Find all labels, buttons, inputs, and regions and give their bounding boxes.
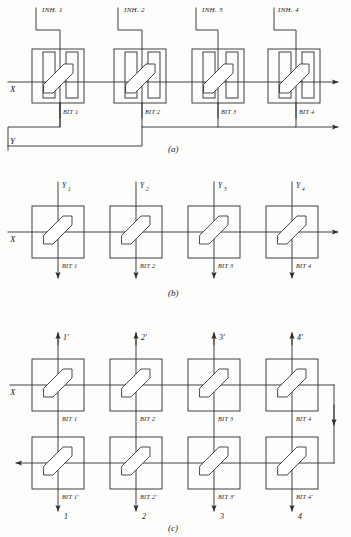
panel-a-bit-3-label: BIT 3	[221, 108, 236, 115]
panel-b-x-label: X	[9, 234, 16, 244]
panel-b-y-2-subscript: 2	[146, 186, 149, 192]
panel-b-y-3-subscript: 3	[224, 186, 227, 192]
panel-b-y-lines	[58, 182, 292, 278]
panel-c-top-4-label: 4'	[297, 333, 303, 342]
panel-c-bit-top-2-label: BIT 2	[140, 415, 155, 422]
panel-c-top-1-label: 1'	[63, 333, 69, 342]
panel-c-bottom-4-label: 4	[298, 512, 302, 521]
panel-a-inh-2-label: INH. 2	[123, 6, 145, 14]
panel-b-bit-1-label: BIT 1	[62, 262, 77, 269]
panel-b-caption: (b)	[168, 288, 179, 298]
panel-a-bit-2-label: BIT 2	[145, 108, 160, 115]
panel-b-core-arrows	[44, 216, 306, 244]
panel-c-drive-lines	[58, 333, 292, 511]
panel-c-bit-top-1-label: BIT 1	[62, 415, 77, 422]
core-memory-figure: X Y INH. 1 INH. 2 INH. 3 INH. 4 BIT 1 BI…	[0, 0, 351, 537]
panel-a-bit-leads	[60, 103, 296, 118]
panel-b-bit-3-label: BIT 3	[218, 262, 233, 269]
panel-c-bit-bottom-3-label: BIT 3'	[218, 493, 235, 500]
panel-a-inh-1-label: INH. 1	[41, 6, 63, 14]
panel-b-bit-2-label: BIT 2	[140, 262, 155, 269]
panel-c-bottom-1-label: 1	[64, 512, 68, 521]
panel-c-top-2-label: 2'	[141, 333, 147, 342]
panel-c-x-label: X	[9, 387, 16, 397]
panel-a-x-label: X	[9, 84, 16, 94]
panel-b-y-3-label: Y	[218, 181, 223, 190]
panel-b-y-1-label: Y	[62, 181, 67, 190]
panel-b-bit-4-label: BIT 4	[296, 262, 311, 269]
panel-c-bit-bottom-4-label: BIT 4'	[296, 493, 313, 500]
panel-b-y-4-subscript: 4	[302, 186, 305, 192]
panel-a-y-label: Y	[10, 136, 16, 146]
panel-c-bottom-2-label: 2	[142, 512, 146, 521]
panel-a-inh-3-label: INH. 3	[201, 6, 223, 14]
panel-a-inh-4-label: INH. 4	[277, 6, 299, 14]
panel-c-bit-bottom-1-label: BIT 1'	[62, 493, 79, 500]
panel-c-bottom-3-label: 3	[219, 512, 224, 521]
panel-c-core-arrows-bottom	[44, 447, 306, 475]
panel-a-bit-1-label: BIT 1	[63, 108, 78, 115]
panel-c-top-3-label: 3'	[218, 333, 225, 342]
panel-c-bit-top-3-label: BIT 3	[218, 415, 233, 422]
panel-c-bit-top-4-label: BIT 4	[296, 415, 311, 422]
panel-b-y-4-label: Y	[296, 181, 301, 190]
panel-a: X Y INH. 1 INH. 2 INH. 3 INH. 4 BIT 1 BI…	[8, 6, 338, 154]
panel-c-bit-bottom-2-label: BIT 2'	[140, 493, 157, 500]
panel-b-y-1-subscript: 1	[68, 186, 71, 192]
panel-a-bit-4-label: BIT 4	[299, 108, 314, 115]
panel-a-cores	[32, 49, 320, 103]
panel-a-caption: (a)	[168, 144, 179, 154]
panel-c-caption: (c)	[168, 523, 178, 533]
panel-c: X 1' 2' 3' 4' BIT 1 BIT 2 BIT 3 BIT 4 BI…	[9, 333, 334, 533]
panel-b-y-2-label: Y	[140, 181, 145, 190]
panel-c-core-arrows-top	[44, 369, 306, 397]
panel-b: X Y 1 Y 2 Y 3 Y 4 BIT 1 BIT 2 BIT 3 BIT …	[8, 181, 338, 298]
